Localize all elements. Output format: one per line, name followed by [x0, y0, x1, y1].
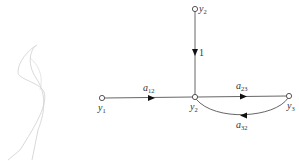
node-y1 [99, 95, 104, 100]
edge-label-1: 1 [199, 47, 204, 58]
edge-label-a12: a12 [143, 82, 155, 94]
edge-y3-y2-arc [196, 98, 288, 115]
arrow-down-icon [192, 49, 198, 56]
edge-label-a32: a32 [236, 119, 248, 131]
arrow-right-icon [240, 94, 247, 100]
signal-flow-graph: y2 y1 y2 y3 1 a12 a23 a32 [0, 0, 299, 161]
node-y3 [286, 93, 291, 98]
node-label-y2: y2 [189, 101, 198, 113]
arrow-right-icon [148, 95, 155, 101]
node-label-y1: y1 [97, 102, 106, 114]
edge-label-a23: a23 [236, 80, 248, 92]
node-label-y2-top: y2 [198, 3, 207, 15]
sketch-decoration [8, 45, 45, 160]
node-y2 [192, 94, 197, 99]
node-y2-top [192, 6, 197, 11]
arrow-left-icon [240, 113, 247, 119]
node-label-y3: y3 [286, 100, 295, 112]
